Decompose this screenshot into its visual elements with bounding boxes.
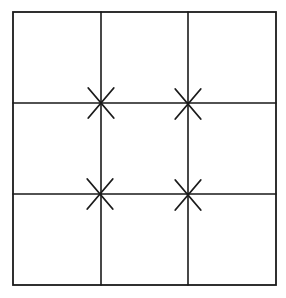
x-marks	[87, 88, 201, 210]
grid-diagram	[0, 0, 286, 298]
grid-lines	[13, 12, 276, 285]
grid-frame	[13, 12, 276, 285]
outer-frame	[13, 12, 276, 285]
